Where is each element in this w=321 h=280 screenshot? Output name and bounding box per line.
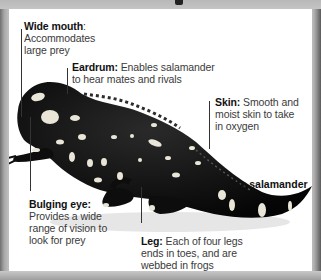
pointer-leg: [141, 187, 142, 223]
term-leg: Leg:: [141, 235, 163, 247]
term-wide-mouth: Wide mouth: [24, 20, 83, 32]
desc-skin-3: in oxygen: [215, 120, 259, 132]
diagram-panel: Wide mouth: Accommodates large prey Eard…: [9, 9, 312, 271]
term-eardrum: Eardrum:: [72, 61, 118, 73]
desc-skin-1: Smooth and: [243, 96, 299, 108]
term-bulging-eye: Bulging eye:: [29, 198, 91, 210]
pointer-skin: [209, 101, 210, 149]
pointer-bulging-eye: [30, 117, 31, 191]
term-skin: Skin:: [215, 96, 240, 108]
pointer-wide-mouth: [21, 29, 22, 117]
label-eardrum: Eardrum: Enables salamander to hear mate…: [72, 61, 215, 85]
desc-eardrum-2: to hear mates and rivals: [72, 73, 182, 85]
label-bulging-eye: Bulging eye: Provides a wide range of vi…: [29, 198, 107, 246]
cropped-title-glyph: [175, 0, 183, 5]
desc-wide-mouth-2: large prey: [24, 44, 70, 56]
top-border: [0, 0, 321, 9]
label-skin: Skin: Smooth and moist skin to take in o…: [215, 96, 299, 132]
bottom-border: [0, 271, 321, 280]
pointer-eardrum: [67, 68, 68, 94]
desc-bulging-eye-3: look for prey: [29, 234, 85, 246]
label-wide-mouth: Wide mouth: Accommodates large prey: [24, 20, 95, 56]
desc-bulging-eye-2: range of vision to: [29, 222, 107, 234]
desc-leg-3: webbed in frogs: [141, 259, 214, 271]
desc-leg-1: Each of four legs: [166, 235, 243, 247]
desc-skin-2: moist skin to take: [215, 108, 294, 120]
species-name: fire salamander: [230, 178, 308, 190]
desc-wide-mouth-1: Accommodates: [24, 32, 95, 44]
label-leg: Leg: Each of four legs ends in toes, and…: [141, 235, 243, 271]
desc-eardrum-1: Enables salamander: [121, 61, 215, 73]
desc-leg-2: ends in toes, and are: [141, 247, 237, 259]
desc-bulging-eye-1: Provides a wide: [29, 210, 102, 222]
